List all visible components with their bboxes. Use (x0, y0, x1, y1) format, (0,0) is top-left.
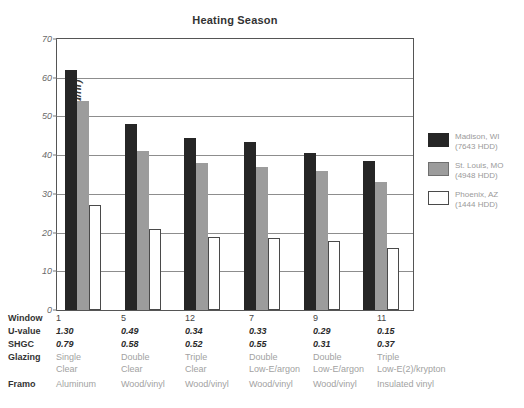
table-row-label: Framo (8, 379, 56, 389)
legend-swatch-icon (428, 162, 449, 176)
legend-city: Phoenix, AZ (455, 190, 498, 199)
table-cell: 7 (249, 313, 313, 323)
bar[interactable] (375, 182, 387, 310)
chart-page: Heating Season Peak Heating Load (kBtu/h… (0, 0, 524, 408)
table-row-label: Window (8, 313, 56, 323)
table-row-label: SHGC (8, 339, 56, 349)
plot-area: Peak Heating Load (kBtu/hr) 010203040506… (56, 38, 414, 311)
bar[interactable] (125, 124, 137, 310)
bar[interactable] (328, 241, 340, 310)
table-cell: Wood/vinyl (249, 379, 313, 389)
legend-label: Phoenix, AZ(1444 HDD) (455, 190, 498, 210)
table-cell: 0.34 (185, 326, 249, 336)
y-tick-label: 50 (42, 111, 52, 121)
bar[interactable] (244, 142, 256, 310)
bar[interactable] (387, 248, 399, 310)
bar[interactable] (89, 205, 101, 310)
bar[interactable] (256, 167, 268, 310)
bar-group (244, 39, 280, 310)
table-cell: Single (56, 352, 120, 362)
table-cell: Low-E/argon (249, 364, 313, 374)
table-cell: Low-E(2)/krypton (377, 364, 451, 374)
y-tick-label: 20 (42, 228, 52, 238)
bar-group (363, 39, 399, 310)
chart-legend: Madison, WI(7643 HDD)St. Louis, MO(4948 … (428, 132, 522, 219)
legend-hdd: (1444 HDD) (455, 200, 498, 210)
legend-hdd: (4948 HDD) (455, 171, 503, 181)
chart-title: Heating Season (55, 14, 415, 26)
table-cell: Triple (377, 352, 451, 362)
table-cell: Aluminum (56, 379, 120, 389)
table-cell: 0.37 (377, 339, 451, 349)
table-cell: Wood/vinyl (121, 379, 185, 389)
legend-hdd: (7643 HDD) (455, 142, 499, 152)
bar[interactable] (196, 163, 208, 310)
bar[interactable] (65, 70, 77, 310)
table-row: U-value1.300.490.340.330.290.15 (8, 326, 448, 339)
bar[interactable] (184, 138, 196, 310)
legend-swatch-icon (428, 133, 449, 147)
table-cell: Insulated vinyl (377, 379, 451, 389)
table-cell: 5 (121, 313, 185, 323)
table-cell: Double (121, 352, 185, 362)
table-cell: Clear (185, 364, 249, 374)
legend-swatch-icon (428, 191, 449, 205)
legend-city: Madison, WI (455, 132, 499, 141)
y-tick-label: 10 (42, 266, 52, 276)
bar[interactable] (137, 151, 149, 310)
table-cell: Wood/vinyl (313, 379, 377, 389)
table-cell: Clear (121, 364, 185, 374)
table-cell: 0.58 (121, 339, 185, 349)
bar-group (184, 39, 220, 310)
legend-label: St. Louis, MO(4948 HDD) (455, 161, 503, 181)
table-cell: 9 (313, 313, 377, 323)
legend-city: St. Louis, MO (455, 161, 503, 170)
table-row: SHGC0.790.580.520.550.310.37 (8, 339, 448, 352)
table-cell: Wood/vinyl (185, 379, 249, 389)
table-cell: 0.15 (377, 326, 451, 336)
bar[interactable] (316, 171, 328, 310)
bar[interactable] (77, 101, 89, 310)
table-row-label: Glazing (8, 352, 56, 362)
y-tick-label: 30 (42, 189, 52, 199)
table-cell: Clear (56, 364, 120, 374)
bar[interactable] (208, 237, 220, 310)
table-cell: 0.31 (313, 339, 377, 349)
bar-groups (57, 39, 413, 310)
table-row-label: U-value (8, 326, 56, 336)
table-cell: 0.49 (121, 326, 185, 336)
y-tick-label: 40 (42, 150, 52, 160)
table-cell: 0.55 (249, 339, 313, 349)
bar[interactable] (268, 238, 280, 310)
table-cell: 0.33 (249, 326, 313, 336)
table-row: FramoAluminumWood/vinylWood/vinylWood/vi… (8, 379, 448, 392)
table-cell: Double (249, 352, 313, 362)
bar-group (304, 39, 340, 310)
table-cell: 0.52 (185, 339, 249, 349)
legend-item[interactable]: Madison, WI(7643 HDD) (428, 132, 522, 152)
table-cell: Low-E/argon (313, 364, 377, 374)
table-row: Window15127911 (8, 313, 448, 326)
table-row: ClearClearClearLow-E/argonLow-E/argonLow… (8, 364, 448, 377)
legend-item[interactable]: St. Louis, MO(4948 HDD) (428, 161, 522, 181)
bar[interactable] (149, 229, 161, 310)
y-tick-label: 60 (42, 73, 52, 83)
bar[interactable] (304, 153, 316, 310)
table-cell: Double (313, 352, 377, 362)
table-cell: 0.79 (56, 339, 120, 349)
table-cell: 0.29 (313, 326, 377, 336)
table-cell: 1.30 (56, 326, 120, 336)
table-cell: 11 (377, 313, 451, 323)
bar[interactable] (363, 161, 375, 310)
bar-group (125, 39, 161, 310)
legend-label: Madison, WI(7643 HDD) (455, 132, 499, 152)
table-cell: 12 (185, 313, 249, 323)
y-tick-label: 70 (42, 34, 52, 44)
table-cell: Triple (185, 352, 249, 362)
bar-group (65, 39, 101, 310)
legend-item[interactable]: Phoenix, AZ(1444 HDD) (428, 190, 522, 210)
table-cell: 1 (56, 313, 120, 323)
